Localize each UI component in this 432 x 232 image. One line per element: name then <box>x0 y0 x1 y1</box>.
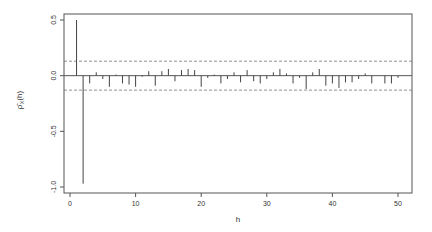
y-tick-label: 0.5 <box>50 15 57 25</box>
x-tick-label: 40 <box>329 200 337 207</box>
y-tick-label: -1.0 <box>50 181 57 193</box>
y-tick-label: 0.0 <box>50 71 57 81</box>
x-tick-label: 30 <box>263 200 271 207</box>
plot-border <box>64 14 412 193</box>
x-axis-label: h <box>236 215 240 224</box>
y-axis: -1.0-0.50.00.5 <box>50 15 64 193</box>
plot-frame <box>64 14 412 193</box>
y-axis-label: ρ̂X(h) <box>15 90 25 109</box>
x-tick-label: 20 <box>197 200 205 207</box>
y-label-suffix: (h) <box>15 90 24 100</box>
x-axis: 01020304050 <box>68 193 402 207</box>
y-tick-label: -0.5 <box>50 125 57 137</box>
acf-chart: 01020304050 -1.0-0.50.00.5 h ρ̂X(h) <box>0 0 432 232</box>
x-tick-label: 10 <box>132 200 140 207</box>
x-tick-label: 0 <box>68 200 72 207</box>
x-tick-label: 50 <box>394 200 402 207</box>
acf-bars <box>77 20 398 184</box>
svg-text:ρ̂X(h): ρ̂X(h) <box>15 90 25 109</box>
